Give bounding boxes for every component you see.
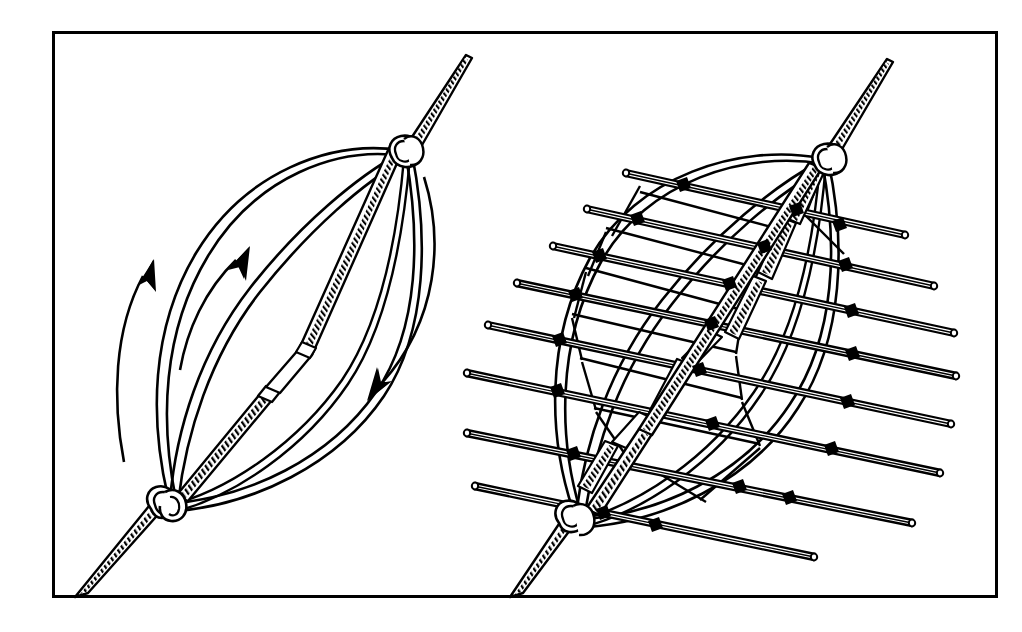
illustration-canvas: Basketry frame construction: lashing rib… (0, 0, 1022, 632)
figure-root: Basketry frame construction: lashing rib… (0, 0, 1022, 632)
top-lashing-knot-right (812, 144, 846, 175)
top-lashing-knot-left (389, 136, 423, 167)
